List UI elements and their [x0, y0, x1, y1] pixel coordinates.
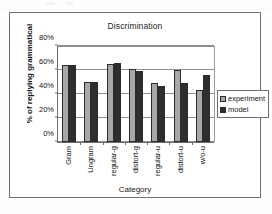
x-tick-mark: [169, 142, 170, 145]
plot-area: 0%20%40%60%80%: [57, 46, 214, 143]
x-axis-title: Category: [57, 185, 213, 194]
bar-model[interactable]: [136, 71, 143, 142]
bar-model[interactable]: [69, 65, 76, 142]
legend-label: experiment: [228, 93, 265, 104]
bar-experiment[interactable]: [84, 82, 91, 142]
legend-entry-experiment[interactable]: experiment: [220, 93, 265, 104]
bar-model[interactable]: [181, 83, 188, 142]
bar-group: [192, 46, 214, 142]
bar-model[interactable]: [114, 63, 121, 142]
scan-artifact: [66, 2, 73, 5]
x-tick-label: w/o-u: [197, 146, 206, 164]
bar-experiment[interactable]: [196, 90, 203, 142]
y-axis-title: % of replying grammatical: [25, 14, 34, 134]
x-tick-label: regular-g: [108, 146, 117, 176]
bar-group: [147, 46, 169, 142]
x-label-cell: distort-g: [124, 146, 146, 184]
chart-legend: experimentmodel: [217, 90, 269, 118]
bar-group: [169, 46, 191, 142]
legend-label: model: [228, 104, 248, 115]
bar-experiment[interactable]: [174, 70, 181, 142]
scan-artifact: [46, 2, 55, 5]
chart-page: Discrimination % of replying grammatical…: [0, 0, 272, 214]
x-tick-label: distort-u: [175, 146, 184, 173]
bar-model[interactable]: [158, 86, 165, 142]
bar-group: [58, 46, 80, 142]
x-tick-label: distort-g: [130, 146, 139, 173]
chart-frame: Discrimination % of replying grammatical…: [9, 12, 261, 198]
x-label-cell: w/o-u: [191, 146, 213, 184]
bar-group: [125, 46, 147, 142]
bar-experiment[interactable]: [151, 83, 158, 142]
x-tick-mark: [125, 142, 126, 145]
x-axis-labels: GramUngramregular-gdistort-gregular-udis…: [57, 146, 213, 184]
y-tick-label: 80%: [39, 33, 54, 42]
legend-swatch-icon: [220, 107, 226, 113]
bar-experiment[interactable]: [107, 64, 114, 142]
x-tick-mark: [80, 142, 81, 145]
scan-artifact: [0, 9, 272, 10]
y-tick-label: 20%: [39, 105, 54, 114]
y-tick-label: 60%: [39, 57, 54, 66]
x-tick-mark: [103, 142, 104, 145]
x-label-cell: regular-g: [102, 146, 124, 184]
bar-model[interactable]: [203, 75, 210, 142]
x-tick-label: Gram: [64, 146, 73, 165]
bars-layer: [58, 46, 214, 142]
x-tick-mark: [192, 142, 193, 145]
x-label-cell: Gram: [57, 146, 79, 184]
bar-group: [103, 46, 125, 142]
y-tick-label: 40%: [39, 81, 54, 90]
x-label-cell: distort-u: [168, 146, 190, 184]
legend-swatch-icon: [220, 96, 226, 102]
x-tick-mark: [147, 142, 148, 145]
y-tick-label: 0%: [43, 129, 54, 138]
chart-title: Discrimination: [10, 21, 260, 31]
x-label-cell: Ungram: [79, 146, 101, 184]
x-tick-label: regular-u: [153, 146, 162, 176]
x-label-cell: regular-u: [146, 146, 168, 184]
x-tick-label: Ungram: [86, 146, 95, 173]
bar-model[interactable]: [91, 82, 98, 142]
legend-entry-model[interactable]: model: [220, 104, 265, 115]
bar-experiment[interactable]: [129, 69, 136, 142]
bar-group: [80, 46, 102, 142]
bar-experiment[interactable]: [62, 65, 69, 142]
